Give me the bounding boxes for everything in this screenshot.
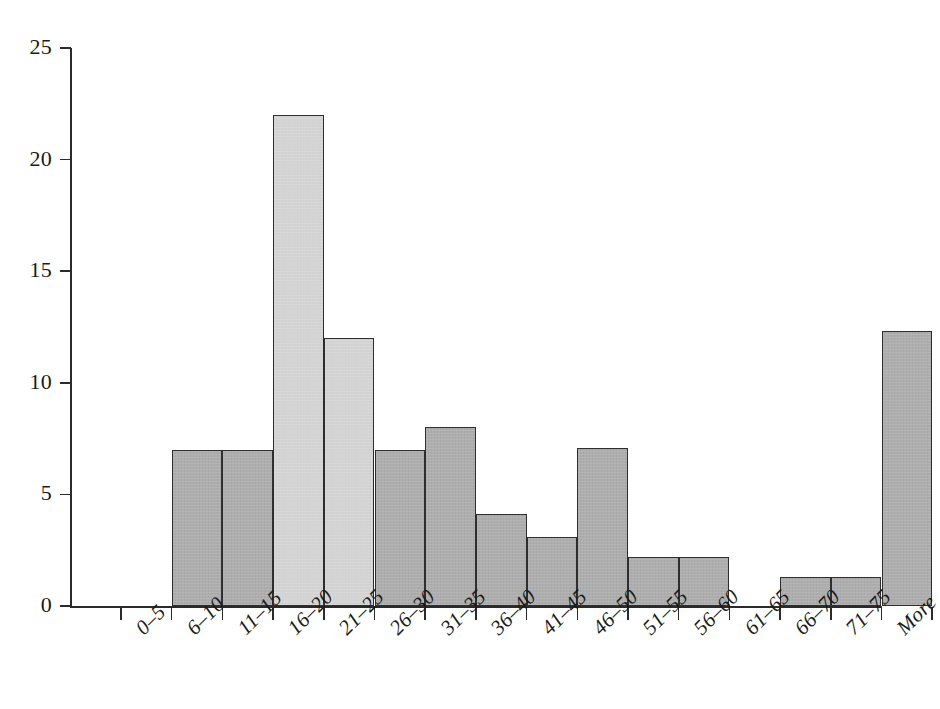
histogram-bar[interactable] [425,427,476,606]
histogram-bar[interactable] [172,450,223,606]
histogram-bar[interactable] [324,338,375,606]
histogram-bar[interactable] [273,115,324,606]
histogram-bar[interactable] [577,448,628,606]
histogram-bar[interactable] [222,450,273,606]
histogram-bar[interactable] [882,331,933,606]
histogram-bar[interactable] [375,450,426,606]
x-axis-tick [120,607,122,620]
x-axis-tick [171,607,173,620]
